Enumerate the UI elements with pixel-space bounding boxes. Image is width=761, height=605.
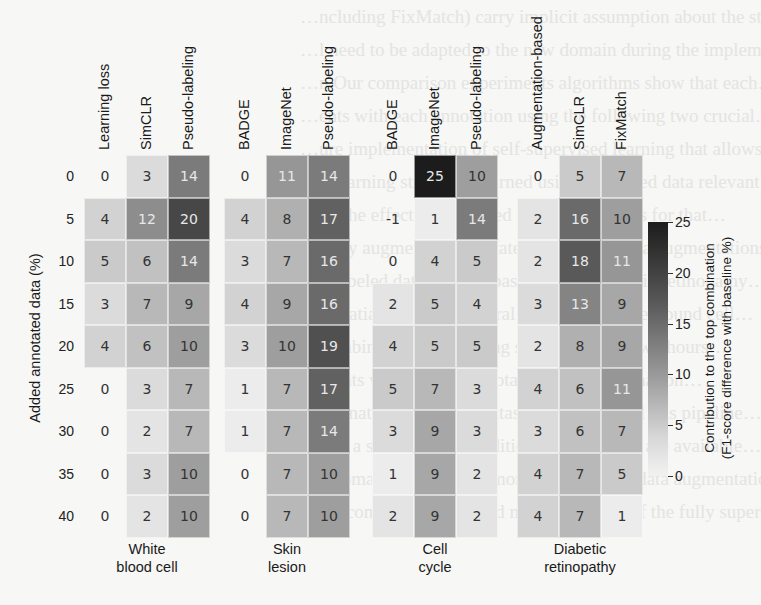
heatmap-cell: 3 [224,240,266,283]
heatmap-cell: 9 [414,410,456,453]
heatmap-cell: 7 [266,410,308,453]
heatmap-cell: 9 [266,283,308,326]
group-label: Cellcycle [418,540,451,576]
heatmap-cell: 2 [372,495,414,538]
heatmap-cell: 0 [224,495,266,538]
y-tick-label: 40 [44,508,74,524]
heatmap-cell: 6 [126,325,168,368]
colorbar-tick-label: 15 [675,316,691,332]
heatmap-cell: 10 [456,155,498,198]
heatmap-cell: 4 [224,283,266,326]
group-label-line: blood cell [116,558,177,576]
heatmap-cell: 9 [601,283,643,326]
heatmap-cell: 11 [266,155,308,198]
colorbar-tick-label: 5 [675,417,683,433]
colorbar-tick-label: 0 [675,468,683,484]
colorbar-label-line-1: Contribution to the top combination [701,237,718,460]
heatmap-cell: 8 [266,198,308,241]
heatmap-cell: 3 [84,283,126,326]
heatmap-cell: 4 [517,453,559,496]
heatmap-cell: 0 [84,368,126,411]
y-tick-label: 25 [44,381,74,397]
colorbar-tick-label: 25 [675,214,691,230]
colorbar-tick-label: 10 [675,366,691,382]
colorbar-tick [668,476,673,477]
column-label: SimCLR [138,96,154,150]
column-label: Learning loss [96,64,112,150]
heatmap-cell: 2 [456,453,498,496]
heatmap-cell: 14 [308,155,350,198]
heatmap-cell: 12 [126,198,168,241]
heatmap-cell: 25 [414,155,456,198]
heatmap-cell: 13 [559,283,601,326]
heatmap-cell: 7 [168,368,210,411]
heatmap-cell: 5 [372,368,414,411]
heatmap-cell: 0 [372,240,414,283]
colorbar-tick [668,324,673,325]
heatmap-cell: 7 [559,453,601,496]
heatmap-cell: 4 [414,240,456,283]
column-label: ImageNet [426,87,442,150]
column-label: FixMatch [613,91,629,150]
heatmap-cell: 1 [224,368,266,411]
heatmap-cell: 1 [414,198,456,241]
column-label: Pseudo-labeling [468,46,484,150]
column-label: Augmentation-based [529,16,545,150]
heatmap-cell: 7 [559,495,601,538]
heatmap-cell: 14 [168,155,210,198]
group-label-line: Diabetic [544,540,616,558]
heatmap-cell: 3 [126,453,168,496]
column-label: ImageNet [278,87,294,150]
heatmap-cell: 2 [126,410,168,453]
heatmap-cell: 17 [308,368,350,411]
heatmap-figure: Added annotated data (%) Contribution to… [0,0,761,605]
colorbar-tick [668,425,673,426]
heatmap-cell: 14 [168,240,210,283]
heatmap-cell: 20 [168,198,210,241]
heatmap-cell: 6 [559,368,601,411]
heatmap-cell: 4 [517,368,559,411]
heatmap-cell: 7 [126,283,168,326]
heatmap-cell: 11 [601,368,643,411]
heatmap-cell: 1 [372,453,414,496]
heatmap-cell: 0 [372,155,414,198]
heatmap-cell: 7 [266,240,308,283]
heatmap-cell: 9 [414,453,456,496]
group-label-line: Skin [268,540,306,558]
heatmap-cell: 3 [517,410,559,453]
heatmap-cell: 1 [601,495,643,538]
group-label-line: cycle [418,558,451,576]
heatmap-cell: 7 [414,368,456,411]
heatmap-cell: 9 [414,495,456,538]
heatmap-cell: 0 [224,155,266,198]
heatmap-cell: 7 [168,410,210,453]
heatmap-cell: 10 [168,453,210,496]
heatmap-cell: 0 [84,495,126,538]
group-label-line: White [116,540,177,558]
heatmap-cell: 5 [414,283,456,326]
colorbar-label-line-2: (F1-score difference with baseline %) [718,237,735,460]
column-label: SimCLR [571,96,587,150]
column-label: BADGE [384,99,400,150]
heatmap-cell: 0 [224,453,266,496]
heatmap-cell: 0 [84,155,126,198]
heatmap-cell: 5 [559,155,601,198]
heatmap-cell: 2 [456,495,498,538]
heatmap-cell: 2 [372,283,414,326]
heatmap-cell: 5 [601,453,643,496]
heatmap-cell: 3 [456,410,498,453]
heatmap-cell: 8 [559,325,601,368]
heatmap-cell: -1 [372,198,414,241]
heatmap-cell: 10 [168,325,210,368]
y-tick-label: 35 [44,466,74,482]
heatmap-cell: 16 [559,198,601,241]
heatmap-cell: 10 [168,495,210,538]
colorbar-tick [668,222,673,223]
heatmap-cell: 9 [601,325,643,368]
colorbar-tick [668,273,673,274]
heatmap-cell: 10 [308,495,350,538]
group-label: Whiteblood cell [116,540,177,576]
heatmap-cell: 4 [517,495,559,538]
heatmap-cell: 7 [601,410,643,453]
heatmap-cell: 0 [84,453,126,496]
